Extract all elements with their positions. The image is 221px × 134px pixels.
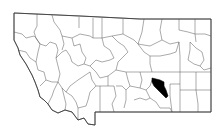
county-locator-map: Montana counties Treasure County <box>0 0 221 134</box>
montana-map <box>0 0 221 134</box>
state-outline <box>14 13 211 125</box>
